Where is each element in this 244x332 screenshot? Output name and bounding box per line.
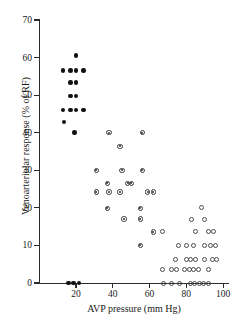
data-point <box>94 168 99 173</box>
data-point <box>196 267 201 272</box>
data-point <box>62 120 67 125</box>
data-point <box>105 206 110 211</box>
x-axis-title: AVP pressure (mm Hg) <box>39 303 229 315</box>
data-point <box>77 281 82 286</box>
y-tick-mark <box>34 282 39 283</box>
y-axis-title: Venoarteriolar response (% of RF) <box>20 36 32 256</box>
data-point <box>106 189 111 194</box>
scatter-plot: 010203040506070 20406080100 AVP pressure… <box>0 0 244 332</box>
y-tick-mark <box>34 170 39 171</box>
data-point <box>213 243 218 248</box>
x-tick-label: 20 <box>61 289 91 299</box>
data-point <box>74 80 79 85</box>
y-tick-mark <box>34 207 39 208</box>
data-point <box>121 216 126 221</box>
y-tick-mark <box>34 95 39 96</box>
data-point <box>72 130 77 135</box>
data-point <box>206 229 211 234</box>
data-point <box>140 168 145 173</box>
data-point <box>208 243 213 248</box>
y-tick-mark <box>34 19 39 20</box>
data-point <box>160 229 165 234</box>
data-point <box>81 108 86 113</box>
data-point <box>71 281 76 286</box>
data-point <box>119 168 124 173</box>
data-point <box>202 217 207 222</box>
data-point <box>189 217 194 222</box>
data-point <box>145 189 150 194</box>
data-point <box>61 108 66 113</box>
x-tick-mark <box>112 283 113 288</box>
data-point <box>151 229 156 234</box>
data-point <box>129 181 134 186</box>
y-tick-label: 70 <box>4 15 32 25</box>
data-point <box>106 130 111 135</box>
data-point <box>202 257 207 262</box>
data-point <box>74 68 79 73</box>
data-point <box>193 257 198 262</box>
data-point <box>74 53 79 58</box>
data-point <box>151 189 156 194</box>
x-tick-label: 100 <box>208 289 238 299</box>
data-point <box>199 205 204 210</box>
data-point <box>81 68 86 73</box>
y-tick-mark <box>34 245 39 246</box>
data-point <box>173 257 178 262</box>
data-point <box>61 68 66 73</box>
data-point <box>117 189 122 194</box>
data-point <box>140 130 145 135</box>
data-point <box>94 189 99 194</box>
data-point <box>174 267 179 272</box>
y-axis-line <box>39 19 40 284</box>
data-point <box>160 267 165 272</box>
data-point <box>184 243 189 248</box>
x-tick-mark <box>223 283 224 288</box>
data-point <box>191 243 196 248</box>
data-point <box>206 267 211 272</box>
data-point <box>214 257 219 262</box>
x-tick-label: 40 <box>98 289 128 299</box>
data-point <box>177 281 182 286</box>
y-tick-mark <box>34 57 39 58</box>
data-point <box>74 108 79 113</box>
data-point <box>138 243 143 248</box>
data-point <box>68 108 73 113</box>
data-point <box>117 144 122 149</box>
data-point <box>68 94 73 99</box>
data-point <box>202 243 207 248</box>
data-point <box>105 181 110 186</box>
y-tick-mark <box>34 132 39 133</box>
x-tick-label: 60 <box>135 289 165 299</box>
data-point <box>206 281 211 286</box>
data-point <box>138 206 143 211</box>
data-point <box>176 243 181 248</box>
x-tick-label: 80 <box>171 289 201 299</box>
data-point <box>74 94 79 99</box>
data-point <box>161 281 166 286</box>
data-point <box>68 68 73 73</box>
data-point <box>169 281 174 286</box>
y-tick-label: 0 <box>4 278 32 288</box>
x-tick-mark <box>186 283 187 288</box>
data-point <box>211 229 216 234</box>
data-point <box>193 229 198 234</box>
data-point <box>68 80 73 85</box>
x-tick-mark <box>149 283 150 288</box>
data-point <box>138 216 143 221</box>
